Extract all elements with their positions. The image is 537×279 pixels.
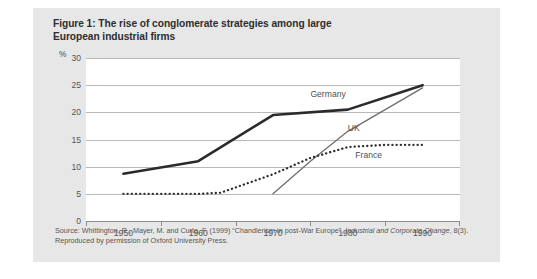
chart-plot-region: 051015202530 GermanyUKFrance 19501960197… (86, 58, 460, 221)
source-prefix: Source: Whittington, R., Mayer, M. and C… (55, 226, 345, 235)
y-axis-tick-label: 15 (71, 135, 81, 145)
figure-title: Figure 1: The rise of conglomerate strat… (53, 17, 473, 43)
figure-title-line-2: European industrial firms (53, 30, 473, 43)
y-axis-tick-label: 5 (76, 189, 81, 199)
y-axis-tick-label: 25 (71, 80, 81, 90)
series-label-uk: UK (348, 123, 360, 133)
series-lines (86, 58, 460, 221)
y-axis-tick-label: 30 (71, 53, 81, 63)
series-line-germany (123, 85, 422, 174)
x-axis-line (86, 221, 460, 222)
y-axis-tick-label: 20 (71, 107, 81, 117)
y-axis-unit-label: % (59, 49, 66, 59)
figure-title-line-1: Figure 1: The rise of conglomerate strat… (53, 17, 473, 30)
y-axis-tick-label: 10 (71, 162, 81, 172)
series-label-france: France (355, 150, 382, 160)
y-axis-tick-label: 0 (76, 216, 81, 226)
source-journal: Industrial and Corporate Change (345, 226, 449, 235)
series-label-germany: Germany (310, 89, 345, 99)
series-line-uk (273, 88, 423, 194)
figure-card: Figure 1: The rise of conglomerate strat… (33, 8, 500, 262)
source-note: Source: Whittington, R., Mayer, M. and C… (55, 226, 483, 247)
